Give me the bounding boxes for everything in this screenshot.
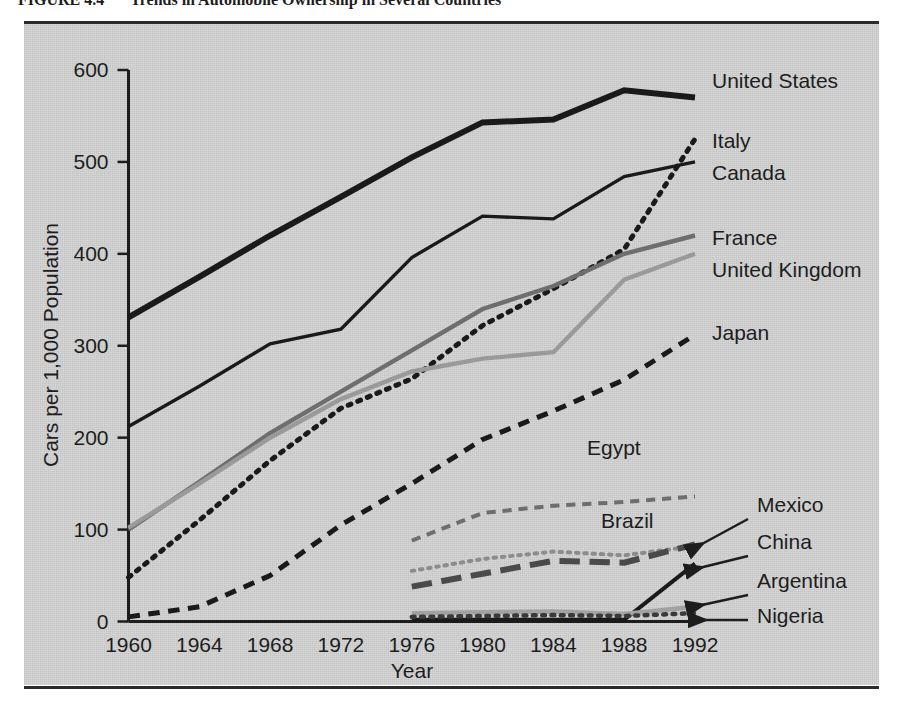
series-label-group: United StatesItalyCanadaFranceUnited Kin… <box>587 69 861 627</box>
y-axis-title: Cars per 1,000 Population <box>39 223 62 467</box>
series-label-china: China <box>757 530 812 553</box>
series-label-egypt: Egypt <box>587 436 641 459</box>
x-axis-title: Year <box>391 659 433 682</box>
series-label-canada: Canada <box>712 161 786 184</box>
x-tick-label: 1976 <box>388 633 435 656</box>
x-tick-label: 1972 <box>318 633 365 656</box>
series-label-france: France <box>712 226 777 249</box>
y-tick-label: 600 <box>73 58 108 81</box>
y-tick-label-group: 0100200300400500600 <box>73 58 108 633</box>
x-tick-label: 1984 <box>530 633 577 656</box>
series-layer <box>129 90 696 620</box>
y-tick-label: 100 <box>73 518 108 541</box>
series-label-united-states: United States <box>712 69 838 92</box>
x-tick-label: 1968 <box>247 633 294 656</box>
x-tick-label: 1992 <box>672 633 719 656</box>
leader-line-mexico <box>689 519 748 551</box>
series-line-united-kingdom <box>129 254 696 528</box>
y-tick-label: 500 <box>73 150 108 173</box>
line-chart: Cars per 1,000 Population 01002003004005… <box>0 0 902 701</box>
series-label-united-kingdom: United Kingdom <box>712 258 861 281</box>
leader-line-china <box>687 556 748 571</box>
series-label-brazil: Brazil <box>601 509 654 532</box>
x-tick-label: 1988 <box>601 633 648 656</box>
y-tick-group <box>118 70 129 622</box>
series-label-argentina: Argentina <box>757 569 847 592</box>
series-label-nigeria: Nigeria <box>757 604 824 627</box>
x-tick-label: 1980 <box>459 633 506 656</box>
y-tick-label: 200 <box>73 426 108 449</box>
series-line-brazil <box>412 546 695 571</box>
series-line-france <box>129 236 696 530</box>
leader-line-group <box>687 519 748 620</box>
y-tick-label: 400 <box>73 242 108 265</box>
x-tick-label: 1964 <box>176 633 223 656</box>
series-line-united-states <box>129 90 696 317</box>
series-label-italy: Italy <box>712 129 751 152</box>
series-label-japan: Japan <box>712 321 769 344</box>
y-tick-label: 0 <box>97 610 109 633</box>
series-label-mexico: Mexico <box>757 493 824 516</box>
leader-line-argentina <box>688 595 748 608</box>
x-tick-label-group: 196019641968197219761980198419881992 <box>105 633 718 656</box>
y-tick-label: 300 <box>73 334 108 357</box>
x-tick-label: 1960 <box>105 633 152 656</box>
